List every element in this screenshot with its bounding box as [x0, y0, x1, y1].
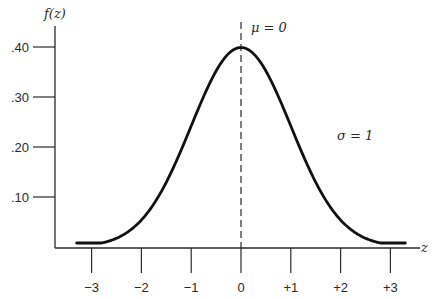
x-ticks: −3−2−10+1+2+3	[84, 248, 398, 295]
y-tick-label: .40	[11, 40, 29, 55]
y-tick-label: .10	[11, 190, 29, 205]
x-tick-label: −3	[84, 280, 99, 295]
x-tick-label: 0	[237, 280, 244, 295]
mu-annotation: μ = 0	[251, 20, 287, 35]
normal-distribution-chart: .10.20.30.40 −3−2−10+1+2+3 f(z) z μ = 0 …	[0, 0, 435, 299]
x-axis-label: z	[420, 240, 428, 255]
x-tick-label: +2	[333, 280, 348, 295]
x-tick-label: +1	[283, 280, 298, 295]
x-tick-label: −2	[134, 280, 149, 295]
y-tick-label: .20	[11, 140, 29, 155]
y-tick-label: .30	[11, 90, 29, 105]
y-axis-label: f(z)	[43, 6, 66, 21]
y-ticks: .10.20.30.40	[11, 40, 55, 205]
x-tick-label: −1	[184, 280, 199, 295]
sigma-annotation: σ = 1	[337, 128, 373, 143]
x-tick-label: +3	[383, 280, 398, 295]
